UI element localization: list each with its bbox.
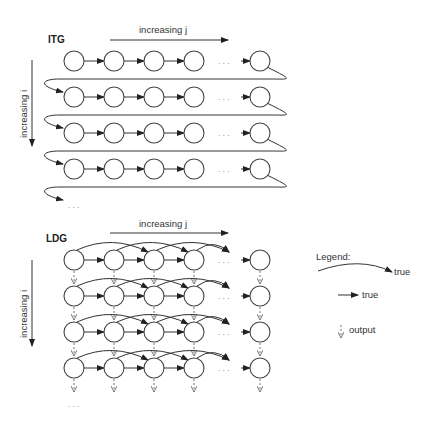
ldg-ellipsis-rows: ... [68,399,82,409]
legend-title: Legend: [316,251,350,262]
ldg-node [250,358,270,378]
ldg-i-axis-label: increasing i [18,290,29,338]
itg-node [250,87,270,107]
ldg-node [184,286,204,306]
itg-node [144,159,164,179]
itg-node [144,51,164,71]
itg-wrap-edge [45,139,287,164]
itg-ellipsis: ... [218,56,232,66]
itg-i-axis-label: increasing i [18,90,29,138]
ldg-node [184,322,204,342]
itg-node [184,51,204,71]
itg-ellipsis: ... [218,164,232,174]
legend-curved-label: true [394,266,410,277]
itg-node [250,123,270,143]
itg-node [64,159,84,179]
dependency-graphs: ITG increasing j increasing i ..........… [0,0,433,424]
ldg-graph: ............... [64,242,270,409]
itg-node [184,159,204,179]
ldg-ellipsis: ... [218,363,232,373]
ldg-node [184,358,204,378]
ldg-node [64,358,84,378]
legend-curved-arrow-icon [318,264,392,272]
itg-node [64,51,84,71]
ldg-node [144,358,164,378]
itg-node [104,159,124,179]
itg-node [144,87,164,107]
itg-node [184,123,204,143]
ldg-node [104,322,124,342]
itg-node [104,123,124,143]
ldg-node [104,250,124,270]
itg-node [64,87,84,107]
ldg-node [250,250,270,270]
ldg-j-axis-label: increasing j [139,218,187,229]
itg-graph: ............... [45,51,287,210]
ldg-node [250,286,270,306]
itg-wrap-edge [45,103,287,128]
itg-title: ITG [48,34,65,45]
legend-straight-label: true [362,289,378,300]
ldg-node [250,322,270,342]
itg-wrap-edge [45,175,287,200]
itg-node [250,51,270,71]
ldg-node [144,286,164,306]
ldg-node [104,286,124,306]
ldg-node [144,250,164,270]
itg-node [144,123,164,143]
itg-j-axis-label: increasing j [139,24,187,35]
diagram-canvas: ITG increasing j increasing i ..........… [0,0,433,424]
legend: Legend: true true output [316,251,410,337]
ldg-ellipsis: ... [218,255,232,265]
ldg-node [104,358,124,378]
ldg-ellipsis: ... [218,291,232,301]
itg-ellipsis: ... [218,128,232,138]
itg-ellipsis: ... [218,92,232,102]
itg-ellipsis-rows: ... [68,200,82,210]
itg-node [64,123,84,143]
itg-node [104,87,124,107]
ldg-node [64,250,84,270]
itg-node [184,87,204,107]
ldg-title: LDG [46,233,67,244]
itg-node [250,159,270,179]
ldg-ellipsis: ... [218,327,232,337]
ldg-node [64,286,84,306]
legend-output-label: output [349,324,376,335]
ldg-node [144,322,164,342]
itg-wrap-edge [45,67,287,92]
itg-node [104,51,124,71]
ldg-node [184,250,204,270]
ldg-node [64,322,84,342]
